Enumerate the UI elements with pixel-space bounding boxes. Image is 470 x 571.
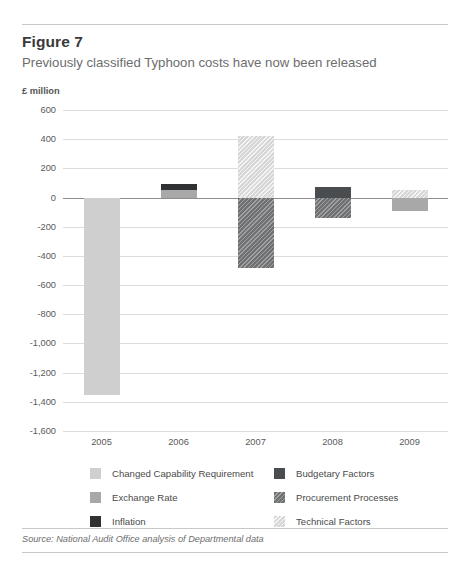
- legend-label: Technical Factors: [296, 516, 371, 527]
- source-divider: [22, 528, 448, 529]
- y-axis-tick-label: -800: [37, 309, 56, 319]
- y-axis-tick-label: 600: [40, 105, 56, 115]
- bar-group: [238, 110, 274, 431]
- y-axis-tick-label: -400: [37, 251, 56, 261]
- legend-item: Exchange Rate: [90, 485, 253, 509]
- legend-item: Inflation: [90, 509, 253, 533]
- figure-number: Figure 7: [22, 33, 83, 51]
- legend-label: Exchange Rate: [112, 492, 178, 503]
- bar-segment: [315, 187, 351, 197]
- y-axis-tick-label: 200: [40, 163, 56, 173]
- y-axis-tick-label: -200: [37, 222, 56, 232]
- y-axis-tick-label: -600: [37, 280, 56, 290]
- legend-item: Budgetary Factors: [274, 461, 398, 485]
- y-axis-tick-label: -1,200: [30, 368, 56, 378]
- bar-segment: [161, 190, 197, 198]
- legend-swatch-budget: [274, 468, 285, 479]
- bar-group: [161, 110, 197, 431]
- figure-container: Figure 7 Previously classified Typhoon c…: [0, 0, 470, 571]
- x-axis-tick-label: 2008: [322, 437, 343, 447]
- y-axis-tick-label: 400: [40, 134, 56, 144]
- bar-segment: [315, 198, 351, 218]
- legend-item: Technical Factors: [274, 509, 398, 533]
- y-axis-tick-label: -1,000: [30, 338, 56, 348]
- legend-label: Budgetary Factors: [296, 468, 374, 479]
- bar-segment: [392, 190, 428, 198]
- bar-segment: [84, 198, 120, 395]
- y-axis-tick-label: 0: [51, 193, 56, 203]
- bar-group: [392, 110, 428, 431]
- gridline: -1,600: [63, 431, 448, 432]
- legend-label: Inflation: [112, 516, 146, 527]
- y-axis-tick-label: -1,600: [30, 426, 56, 436]
- legend-column-right: Budgetary FactorsProcurement ProcessesTe…: [274, 461, 398, 533]
- x-axis-tick-label: 2006: [168, 437, 189, 447]
- source-note: Source: National Audit Office analysis o…: [22, 534, 264, 544]
- legend-label: Changed Capability Requirement: [112, 468, 253, 479]
- bottom-divider: [22, 552, 448, 553]
- chart-plot-area: 6004002000-200-400-600-800-1,000-1,200-1…: [63, 110, 448, 431]
- figure-subtitle: Previously classified Typhoon costs have…: [22, 55, 377, 70]
- bar-segment: [238, 198, 274, 268]
- top-divider: [22, 24, 448, 25]
- y-axis-unit-label: £ million: [22, 86, 60, 96]
- legend-label: Procurement Processes: [296, 492, 398, 503]
- legend-swatch-inflation: [90, 516, 101, 527]
- legend-swatch-exchange: [90, 492, 101, 503]
- legend-item: Changed Capability Requirement: [90, 461, 253, 485]
- bar-segment: [238, 136, 274, 197]
- legend-item: Procurement Processes: [274, 485, 398, 509]
- bar-group: [315, 110, 351, 431]
- legend-swatch-changed: [90, 468, 101, 479]
- legend-swatch-procure: [274, 492, 285, 503]
- legend-swatch-technical: [274, 516, 285, 527]
- x-axis-tick-label: 2005: [91, 437, 112, 447]
- x-axis-tick-label: 2009: [399, 437, 420, 447]
- bar-group: [84, 110, 120, 431]
- y-axis-tick-label: -1,400: [30, 397, 56, 407]
- x-axis-tick-label: 2007: [245, 437, 266, 447]
- bar-segment: [392, 198, 428, 212]
- legend-column-left: Changed Capability RequirementExchange R…: [90, 461, 253, 533]
